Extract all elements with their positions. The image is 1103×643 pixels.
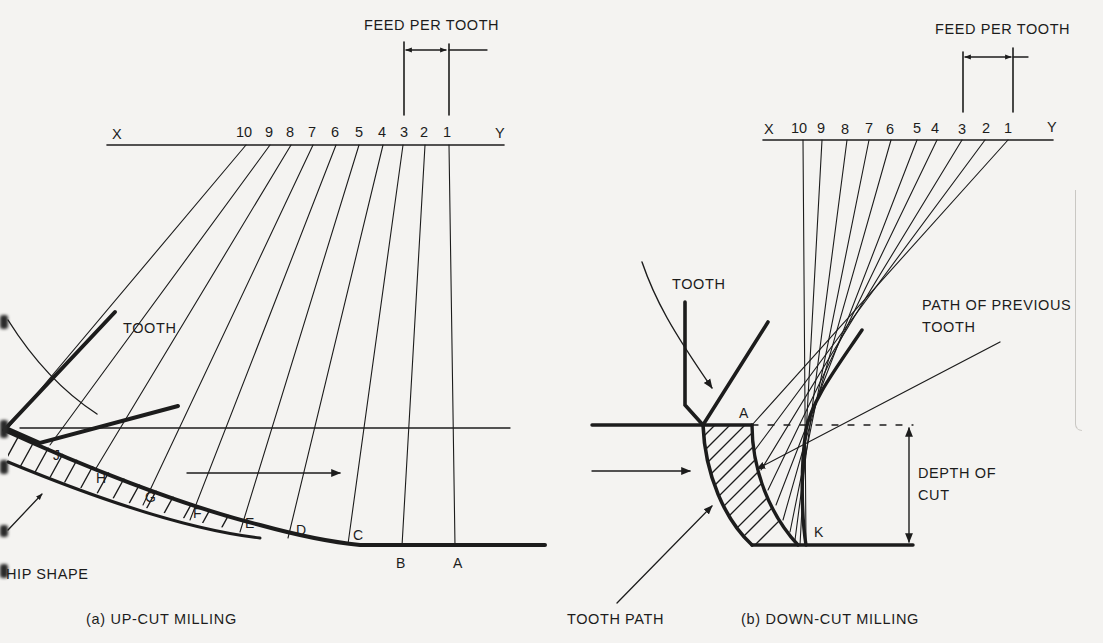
down-cut-tooth-position: 9 (817, 121, 825, 136)
down-cut-caption: (b) DOWN-CUT MILLING (741, 612, 919, 627)
up-cut-chip-shape-label: HIP SHAPE (6, 567, 89, 582)
down-cut-depth-of-cut-label-line2: CUT (918, 488, 950, 503)
up-cut-feed-per-tooth-label: FEED PER TOOTH (364, 18, 499, 33)
down-cut-tooth-path-label: TOOTH PATH (567, 612, 664, 627)
down-cut-tooth-position: 1 (1004, 121, 1012, 136)
up-cut-point-label: H (96, 471, 107, 485)
down-cut-tooth-position: 3 (958, 122, 966, 137)
down-cut-point-a-label: A (739, 406, 749, 420)
scan-edge-shadow (0, 525, 8, 537)
down-cut-tooth-position: 5 (913, 121, 921, 136)
up-cut-point-label: D (296, 523, 307, 537)
up-cut-tooth-position: 5 (355, 125, 363, 140)
down-cut-tooth-position: 10 (791, 121, 807, 136)
up-cut-diagram (0, 42, 545, 546)
up-cut-tooth-position: 9 (265, 125, 273, 140)
down-cut-previous-path-label: PATH OF PREVIOUS (922, 298, 1071, 313)
up-cut-tooth-position: 1 (443, 125, 451, 140)
milling-diagram-figure: FEED PER TOOTH X Y 10 9 8 7 6 5 4 3 2 1 … (0, 0, 1103, 643)
down-cut-depth-of-cut-label: DEPTH OF (918, 466, 996, 481)
down-cut-feed-per-tooth-label: FEED PER TOOTH (935, 22, 1070, 37)
down-cut-axis-x-label: X (764, 122, 774, 137)
scan-edge-shadow (0, 315, 8, 329)
down-cut-tooth-position: 8 (841, 122, 849, 137)
up-cut-tooth-position: 4 (378, 125, 386, 140)
scan-edge-shadow (0, 420, 8, 438)
up-cut-point-label: F (193, 506, 202, 520)
up-cut-caption: (a) UP-CUT MILLING (86, 612, 237, 627)
up-cut-point-label: J (53, 448, 61, 462)
down-cut-tooth-position: 6 (886, 122, 894, 137)
down-cut-previous-path-label-line2: TOOTH (922, 320, 975, 335)
up-cut-tooth-position: 3 (400, 125, 408, 140)
up-cut-point-label: A (453, 556, 463, 570)
up-cut-tooth-position: 8 (286, 125, 294, 140)
up-cut-point-label: B (396, 556, 406, 570)
down-cut-point-k-label: K (814, 525, 824, 539)
down-cut-tooth-label: TOOTH (672, 277, 725, 292)
up-cut-tooth-position: 10 (236, 125, 252, 140)
down-cut-axis-y-label: Y (1047, 120, 1057, 135)
up-cut-tooth-position: 6 (331, 125, 339, 140)
down-cut-tooth-position: 4 (931, 121, 939, 136)
up-cut-axis-x-label: X (112, 127, 122, 142)
up-cut-point-label: G (145, 490, 157, 504)
up-cut-tooth-position: 2 (420, 125, 428, 140)
down-cut-tooth-position: 7 (865, 121, 873, 136)
up-cut-axis-y-label: Y (495, 126, 505, 141)
up-cut-tooth-label: TOOTH (123, 321, 176, 336)
up-cut-tooth-position: 7 (308, 125, 316, 140)
paper-fold-mark (1075, 190, 1082, 431)
up-cut-point-label: E (245, 516, 255, 530)
down-cut-tooth-position: 2 (982, 121, 990, 136)
scan-edge-shadow (0, 460, 8, 474)
up-cut-point-label: C (353, 528, 364, 542)
